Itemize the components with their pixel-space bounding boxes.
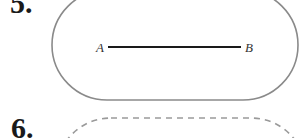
point-label-a: A — [96, 41, 104, 54]
point-label-b: B — [245, 41, 253, 54]
solid-stadium-outline — [52, 0, 298, 100]
figure-canvas — [0, 0, 301, 138]
dashed-stadium-outline — [56, 118, 301, 138]
problem-number-6: 6. — [11, 113, 34, 138]
